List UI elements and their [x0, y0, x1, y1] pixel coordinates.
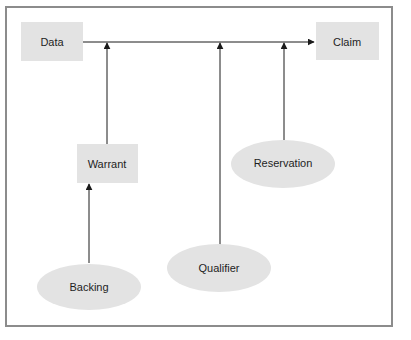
node-reservation: Reservation: [231, 140, 335, 188]
node-qualifier-label: Qualifier: [199, 262, 240, 274]
node-backing-label: Backing: [69, 281, 108, 293]
diagram-canvas: Data Claim Warrant Reservation Backing Q…: [0, 0, 411, 340]
node-claim-label: Claim: [333, 36, 361, 48]
node-warrant-label: Warrant: [88, 158, 127, 170]
node-data: Data: [21, 22, 83, 61]
node-reservation-label: Reservation: [254, 157, 313, 169]
node-claim: Claim: [316, 22, 379, 60]
node-qualifier: Qualifier: [167, 244, 271, 292]
node-data-label: Data: [40, 36, 64, 48]
node-backing: Backing: [37, 264, 141, 310]
node-warrant: Warrant: [77, 144, 138, 183]
